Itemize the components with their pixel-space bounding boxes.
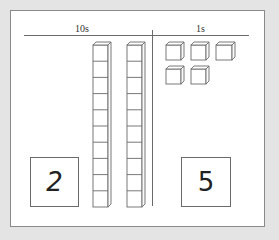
unit-cube-3: [216, 42, 235, 60]
unit-cube-2: [191, 42, 209, 60]
unit-cube-4: [166, 66, 184, 84]
ones-digit: 5: [198, 167, 215, 197]
tens-rod-2: [127, 42, 145, 207]
unit-cube-5: [191, 66, 209, 84]
ones-digit-box: 5: [181, 157, 231, 207]
tens-digit-box: 2: [30, 157, 79, 207]
tens-rod-1: [93, 42, 111, 207]
unit-cube-1: [166, 42, 184, 60]
tens-digit: 2: [46, 167, 63, 197]
